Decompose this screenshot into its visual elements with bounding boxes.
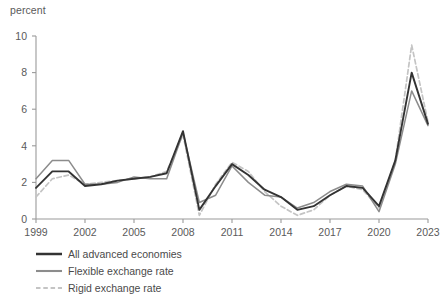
y-axis-group: 0246810 [15, 30, 36, 225]
y-axis-ticks: 0246810 [15, 30, 36, 225]
x-axis-tick-label: 2014 [269, 226, 293, 238]
x-axis-tick-label: 2008 [171, 226, 195, 238]
x-axis-tick-label: 2002 [73, 226, 97, 238]
chart-legend: All advanced economiesFlexible exchange … [36, 248, 182, 294]
legend-label: All advanced economies [68, 248, 182, 260]
x-axis-group: 199920022005200820112014201720202023 [24, 219, 440, 238]
legend-label: Rigid exchange rate [68, 282, 162, 294]
y-axis-tick-label: 10 [15, 30, 27, 42]
x-axis-tick-label: 2017 [318, 226, 342, 238]
y-axis-tick-label: 2 [21, 176, 27, 188]
x-axis-ticks: 199920022005200820112014201720202023 [24, 219, 440, 238]
x-axis-tick-label: 2023 [416, 226, 440, 238]
series-line [36, 73, 428, 210]
x-axis-tick-label: 1999 [24, 226, 48, 238]
y-axis-tick-label: 8 [21, 66, 27, 78]
y-axis-tick-label: 6 [21, 103, 27, 115]
y-axis-tick-label: 4 [21, 140, 27, 152]
x-axis-tick-label: 2011 [221, 226, 244, 238]
y-axis-tick-label: 0 [21, 213, 27, 225]
series-line [36, 45, 428, 215]
legend-label: Flexible exchange rate [68, 265, 174, 277]
data-series-lines [36, 45, 428, 215]
x-axis-tick-label: 2005 [122, 226, 146, 238]
chart-container: percent 0246810 199920022005200820112014… [0, 0, 440, 304]
line-chart-plot: 0246810 19992002200520082011201420172020… [0, 0, 440, 304]
series-line [36, 91, 428, 212]
x-axis-tick-label: 2020 [367, 226, 391, 238]
